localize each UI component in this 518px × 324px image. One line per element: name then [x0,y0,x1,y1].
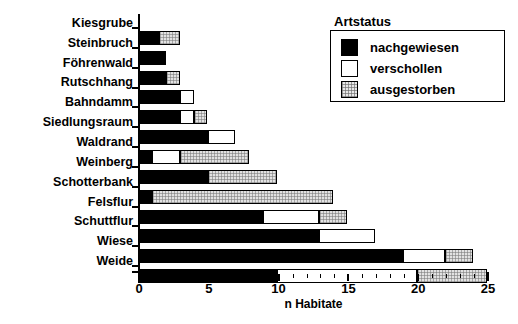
bar-segment-verschollen [152,150,180,164]
x-axis-minor-tick [307,274,308,278]
y-axis-tick [132,47,139,49]
bar-segment-verschollen [180,90,194,104]
y-axis-tick [132,27,139,29]
bar-segment-nachgewiesen [138,210,264,224]
bar-segment-ausgestorben [445,249,473,263]
y-axis-label: Kiesgrube [0,16,133,30]
x-axis-tick-label: 25 [481,281,495,296]
legend-item: ausgestorben [341,79,455,99]
legend-item-label: ausgestorben [370,82,455,97]
bar-segment-nachgewiesen [138,190,152,204]
y-axis-label: Waldrand [0,135,133,149]
bar-segment-ausgestorben [194,110,208,124]
x-axis-minor-tick [223,274,224,278]
y-axis-label: Rutschhang [0,75,133,89]
x-axis-minor-tick [153,274,154,278]
x-axis-major-tick [417,274,419,281]
x-axis-tick-label: 15 [341,281,355,296]
legend-item: verschollen [341,58,442,78]
x-axis-major-tick [278,274,280,281]
legend-item-label: nachgewiesen [370,40,459,55]
x-axis-minor-tick [320,274,321,278]
legend-item-label: verschollen [370,61,442,76]
y-axis-label: Felsflur [0,195,133,209]
x-axis-tick-label: 20 [411,281,425,296]
x-axis-major-tick [487,274,489,281]
y-axis-label: Föhrenwald [0,56,133,70]
bar-segment-nachgewiesen [138,249,403,263]
x-axis-major-tick [347,274,349,281]
x-axis-minor-tick [376,274,377,278]
x-axis-minor-tick [195,274,196,278]
bar-segment-verschollen [208,130,236,144]
x-axis-tick-label: 5 [205,281,212,296]
bar-segment-verschollen [319,229,375,243]
y-axis-label: Steinbruch [0,36,133,50]
y-axis-label: Schuttflur [0,214,133,228]
x-axis-minor-tick [293,274,294,278]
y-axis-tick [132,146,139,148]
x-axis-minor-tick [446,274,447,278]
bar-segment-verschollen [403,249,445,263]
y-axis-tick [132,225,139,227]
y-axis-tick [132,67,139,69]
y-axis-label: Weide [0,254,133,268]
bar-segment-nachgewiesen [138,130,208,144]
y-axis-label: Siedlungsraum [0,115,133,129]
x-axis-major-tick [208,274,210,281]
x-axis-major-tick [138,274,140,281]
y-axis-tick [132,271,139,273]
bar-segment-verschollen [263,210,319,224]
x-axis-minor-tick [404,274,405,278]
bar-segment-nachgewiesen [138,110,180,124]
legend-box: nachgewiesenverschollenausgestorben [330,30,505,102]
bar-segment-verschollen [180,110,194,124]
y-axis-tick [132,265,139,267]
legend-item: nachgewiesen [341,37,459,57]
y-axis-tick [132,126,139,128]
bar-segment-nachgewiesen [138,31,159,45]
y-axis-label: Wiese [0,234,133,248]
bar-segment-nachgewiesen [138,71,166,85]
x-axis-minor-tick [181,274,182,278]
x-axis-minor-tick [251,274,252,278]
y-axis-label: Bahndamm [0,95,133,109]
empty-white-swatch [341,60,358,77]
solid-black-swatch [341,39,358,56]
bar-segment-nachgewiesen [138,150,152,164]
y-axis-tick [132,106,139,108]
x-axis-minor-tick [474,274,475,278]
x-axis-minor-tick [265,274,266,278]
bar-segment-nachgewiesen [138,170,208,184]
bar-segment-nachgewiesen [138,51,166,65]
bar-segment-ausgestorben [180,150,250,164]
x-axis-minor-tick [237,274,238,278]
y-axis-tick [132,166,139,168]
bar-segment-ausgestorben [159,31,180,45]
x-axis-minor-tick [362,274,363,278]
bar-segment-ausgestorben [166,71,180,85]
bar-segment-ausgestorben [208,170,278,184]
bar-segment-ausgestorben [319,210,347,224]
legend-title: Artstatus [334,14,391,29]
x-axis-minor-tick [334,274,335,278]
chart-root: 0510152025 n Habitate Artstatus nachgewi… [0,0,518,324]
y-axis-tick [132,206,139,208]
hatched-gray-swatch [341,81,358,98]
x-axis-tick-label: 10 [271,281,285,296]
x-axis-minor-tick [460,274,461,278]
y-axis-tick [132,87,139,89]
bar-segment-ausgestorben [417,269,487,283]
y-axis-label: Weinberg [0,155,133,169]
x-axis-minor-tick [390,274,391,278]
x-axis-tick-label: 0 [135,281,142,296]
bar-segment-nachgewiesen [138,90,180,104]
bar-segment-nachgewiesen [138,229,319,243]
y-axis-tick [132,186,139,188]
x-axis-title: n Habitate [139,297,488,311]
y-axis-label: Schotterbank [0,175,133,189]
bar-segment-ausgestorben [152,190,333,204]
x-axis-minor-tick [167,274,168,278]
x-axis-minor-tick [432,274,433,278]
y-axis-tick [132,245,139,247]
